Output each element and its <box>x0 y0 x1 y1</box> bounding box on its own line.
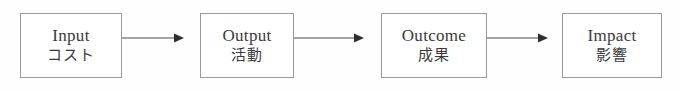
logic-model-diagram: Input コスト Output 活動 Outcome 成果 Impact 影響 <box>0 0 681 92</box>
stage-label-en-output: Output <box>222 26 271 45</box>
arrow-outcome-to-impact <box>487 32 548 44</box>
stage-box-output: Output 活動 <box>200 13 294 78</box>
stage-label-en-input: Input <box>52 26 89 45</box>
stage-box-impact: Impact 影響 <box>562 13 662 78</box>
stage-label-ja-input: コスト <box>47 46 96 65</box>
stage-box-input: Input コスト <box>20 13 122 78</box>
stage-label-en-outcome: Outcome <box>402 26 466 45</box>
arrow-output-to-outcome <box>294 32 364 44</box>
stage-label-ja-outcome: 成果 <box>418 46 450 65</box>
arrow-input-to-output <box>122 32 184 44</box>
stage-label-ja-output: 活動 <box>231 46 263 65</box>
stage-label-ja-impact: 影響 <box>596 46 628 65</box>
stage-label-en-impact: Impact <box>588 26 637 45</box>
stage-box-outcome: Outcome 成果 <box>381 13 487 78</box>
